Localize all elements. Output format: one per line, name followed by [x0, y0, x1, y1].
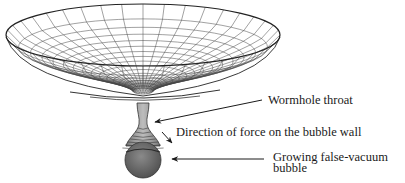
bubble-label-line2: bubble: [273, 161, 307, 175]
force-direction-arrow: [162, 132, 172, 143]
wormhole-neck: [126, 103, 160, 146]
throat-arrow: [155, 100, 262, 122]
wormhole-diagram: Wormhole throat Direction of force on th…: [0, 0, 405, 183]
force-direction-label: Direction of force on the bubble wall: [176, 125, 362, 139]
wormhole-throat-label: Wormhole throat: [268, 93, 353, 107]
false-vacuum-bubble: [125, 142, 161, 178]
wormhole-funnel: [6, 4, 280, 96]
